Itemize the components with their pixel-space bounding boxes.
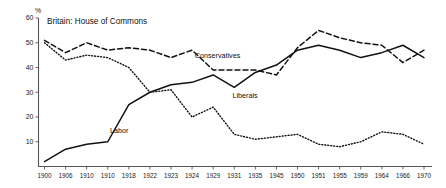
x-tick-label: 1922 [143,172,158,179]
y-tick-label: 40 [26,64,34,71]
series-label-liberals: Liberals [233,91,259,100]
x-tick-label: 1910 [80,172,95,179]
x-tick-label: 1918 [122,172,137,179]
x-tick-label: 1929 [206,172,221,179]
series-annotations: ConservativesLaborLiberals [110,51,258,135]
election-vote-share-chart: % 102030405060 1900190619101910191819221… [0,0,446,188]
y-tick-label: 30 [26,89,34,96]
x-tick-label: 1906 [59,172,74,179]
x-tick-label: 1950 [290,172,305,179]
x-tick-label: 1900 [37,172,52,179]
y-tick-label: 60 [26,14,34,21]
series-label-conservatives: Conservatives [195,51,241,60]
chart-title: Britain: House of Commons [47,17,147,26]
x-tick-label: 1910 [101,172,116,179]
x-tick-label: 1931 [227,172,242,179]
y-axis-unit-label: % [35,7,41,14]
series-line-labor [45,45,425,161]
y-axis-unit-label-group: % [35,7,41,14]
x-tick-label: 1923 [164,172,179,179]
chart-container: % 102030405060 1900190619101910191819221… [0,0,446,188]
y-tick-label: 20 [26,113,34,120]
x-axis-ticks: 1900190619101910191819221923192419291931… [37,167,431,180]
series-label-labor: Labor [110,126,129,135]
y-tick-label: 10 [26,138,34,145]
x-tick-label: 1945 [269,172,284,179]
x-tick-label: 1970 [417,172,432,179]
x-tick-label: 1964 [375,172,390,179]
x-tick-label: 1966 [396,172,411,179]
y-axis-ticks: 102030405060 [26,14,39,145]
x-tick-label: 1924 [185,172,200,179]
x-tick-label: 1951 [312,172,327,179]
x-tick-label: 1935 [248,172,263,179]
y-tick-label: 50 [26,39,34,46]
x-tick-label: 1959 [354,172,369,179]
x-tick-label: 1955 [333,172,348,179]
